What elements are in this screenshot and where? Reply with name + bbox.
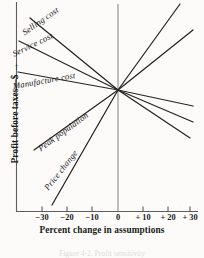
line-price-change-seg [52,90,118,205]
x-tick-label-zero: 0 [116,213,120,222]
line-unlabeled-shallow [118,90,193,122]
x-axis-title: Percent change in assumptions [0,225,204,235]
x-tick-label-plus10: + 10 [135,213,150,222]
x-tick-label-minus30: −30 [35,213,48,222]
y-axis-title: Profit before taxes—$ → [10,28,20,198]
x-tick-label-plus30: + 30 [182,213,197,222]
x-axis-ticks [42,207,190,212]
x-tick-label-plus20: + 20 [160,213,175,222]
figure-caption: Figure 4-2. Profit sensitivity [0,249,204,258]
line-selling-cost-seg-right [118,4,180,90]
sensitivity-chart-figure: Selling cost Service cost Manufacture co… [0,0,204,258]
x-tick-label-minus20: −20 [60,213,73,222]
x-tick-label-minus10: −10 [85,213,98,222]
